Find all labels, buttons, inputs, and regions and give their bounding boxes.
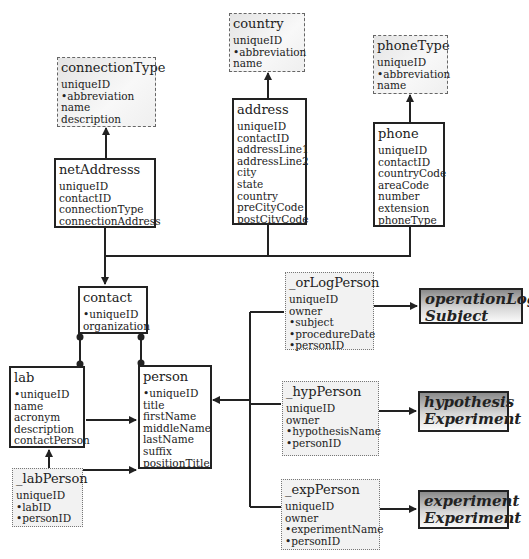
field: uniqueID (286, 403, 375, 415)
field: phoneType (378, 215, 440, 227)
entity-expperson[interactable]: _expPerson uniqueID owner •experimentNam… (281, 479, 380, 550)
entity-title: _labPerson (16, 471, 79, 486)
field: •uniqueID (14, 389, 80, 401)
field: name (377, 80, 444, 92)
external-line2: Subject (425, 308, 517, 325)
field: •personID (16, 513, 79, 525)
field: preCityCode (237, 202, 302, 214)
field: description (61, 114, 152, 126)
entity-contact[interactable]: contact •uniqueID organization (78, 286, 148, 334)
field: uniqueID (233, 35, 301, 47)
entity-orlogperson[interactable]: _orLogPerson uniqueID owner •subject •pr… (285, 272, 374, 350)
external-line2: Experiment (424, 411, 503, 428)
entity-title: _expPerson (285, 482, 376, 497)
field: uniqueID (237, 121, 302, 133)
entity-address[interactable]: address uniqueID contactID addressLine1 … (232, 98, 307, 225)
entity-phone[interactable]: phone uniqueID contactID countryCode are… (373, 122, 445, 227)
field: organization (83, 321, 143, 333)
field: uniqueID (16, 490, 79, 502)
entity-lab[interactable]: lab •uniqueID name acronym description c… (9, 366, 85, 448)
external-line1: hypothesis (424, 394, 503, 411)
entity-connectiontype[interactable]: connectionType uniqueID •abbreviation na… (57, 57, 156, 127)
entity-title: netAddresss (59, 162, 151, 177)
entity-title: person (143, 369, 207, 384)
field: uniqueID (285, 501, 376, 513)
entity-title: contact (83, 290, 143, 305)
external-line1: operationLog (425, 291, 517, 308)
field: postCityCode (237, 214, 302, 226)
external-experiment-experiment[interactable]: experiment Experiment (418, 490, 509, 529)
external-operationlog-subject[interactable]: operationLog Subject (419, 288, 523, 324)
entity-title: _orLogPerson (289, 275, 370, 290)
er-diagram: connectionType uniqueID •abbreviation na… (0, 0, 529, 559)
entity-hypperson[interactable]: _hypPerson uniqueID owner •hypothesisNam… (282, 381, 379, 456)
entity-title: phone (378, 126, 440, 141)
field: state (237, 179, 302, 191)
entity-country[interactable]: country uniqueID •abbreviation name (229, 13, 305, 72)
field: uniqueID (289, 294, 370, 306)
entity-phonetype[interactable]: phoneType uniqueID •abbreviation name (373, 35, 448, 94)
entity-labperson[interactable]: _labPerson uniqueID •labID •personID (12, 468, 83, 527)
external-hypothesis-experiment[interactable]: hypothesis Experiment (418, 391, 509, 432)
field: •uniqueID (143, 388, 207, 400)
field: contactPerson (14, 435, 80, 447)
field: extension (378, 203, 440, 215)
entity-title: connectionType (61, 60, 152, 75)
entity-title: address (237, 102, 302, 117)
field: suffix (143, 446, 207, 458)
field: •personID (286, 438, 375, 450)
external-line1: experiment (424, 493, 503, 510)
entity-person[interactable]: person •uniqueID title firstName middleN… (138, 365, 212, 469)
entity-netaddresss[interactable]: netAddresss uniqueID contactID connectio… (54, 158, 156, 228)
entity-title: phoneType (377, 38, 444, 53)
external-line2: Experiment (424, 510, 503, 527)
entity-title: lab (14, 370, 80, 385)
field: connectionAddress (59, 216, 151, 228)
field: •personID (289, 340, 370, 352)
field: uniqueID (59, 181, 151, 193)
field: uniqueID (377, 57, 444, 69)
entity-title: _hypPerson (286, 384, 375, 399)
field: •personID (285, 536, 376, 548)
field: positionTitle (143, 458, 207, 470)
field: uniqueID (378, 145, 440, 157)
entity-title: country (233, 16, 301, 31)
field: uniqueID (61, 79, 152, 91)
field: name (233, 58, 301, 70)
field: •uniqueID (83, 309, 143, 321)
